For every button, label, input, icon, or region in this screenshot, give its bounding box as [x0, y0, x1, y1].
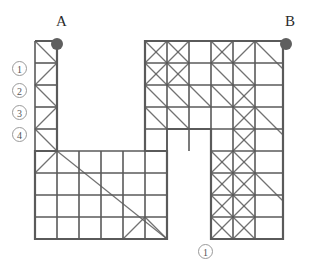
diagonal-lines-group [35, 41, 283, 239]
grid-diagram-svg [0, 0, 311, 273]
grid-segment [167, 107, 189, 129]
grid-segment [123, 217, 145, 239]
diagram-canvas: A B 1 2 3 4 1 [0, 0, 311, 273]
edge-label-3-left: 3 [12, 105, 27, 120]
grid-segment [211, 85, 233, 107]
grid-segment [35, 85, 57, 107]
grid-segment [35, 129, 57, 151]
grid-segment [255, 41, 283, 69]
grid-segment [189, 85, 211, 107]
grid-segment [35, 63, 57, 85]
endpoint-nodes-group [51, 38, 292, 50]
endpoint-dot-b [280, 38, 292, 50]
grid-segment [233, 63, 255, 85]
edge-label-1-bottom: 1 [198, 244, 213, 259]
grid-segment [35, 151, 57, 173]
grid-segment [145, 107, 167, 129]
endpoint-label-a: A [56, 14, 67, 29]
grid-segment [211, 63, 233, 85]
grid-segment [255, 173, 283, 201]
endpoint-dot-a [51, 38, 63, 50]
edge-label-2-left: 2 [12, 83, 27, 98]
grid-segment [167, 85, 189, 107]
grid-segment [145, 217, 167, 239]
grid-segment [145, 85, 167, 107]
grid-segment [35, 107, 57, 129]
endpoint-label-b: B [285, 14, 295, 29]
grid-segment [233, 41, 255, 63]
edge-label-1-left: 1 [12, 61, 27, 76]
grid-segment [255, 107, 283, 135]
edge-label-4-left: 4 [12, 127, 27, 142]
